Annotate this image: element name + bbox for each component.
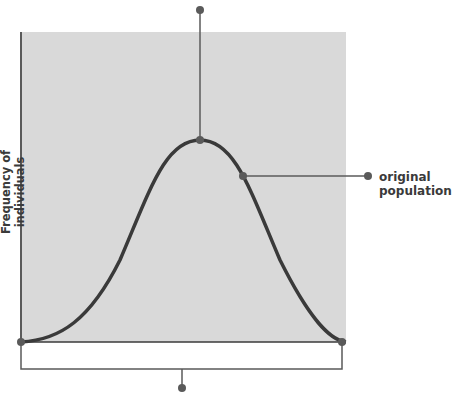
population-pointer-curve-dot bbox=[239, 172, 247, 180]
original-population-label-line1: original bbox=[379, 170, 452, 184]
peak-pointer-dot bbox=[196, 136, 204, 144]
plot-area bbox=[21, 32, 346, 342]
population-pointer-end-dot bbox=[364, 172, 372, 180]
y-axis-label: Frequency of individuals bbox=[0, 117, 27, 267]
original-population-label-line2: population bbox=[379, 184, 452, 198]
original-population-label: original population bbox=[379, 170, 452, 198]
range-bracket-dot bbox=[178, 384, 186, 392]
peak-pointer-top-dot bbox=[196, 6, 204, 14]
range-bracket bbox=[21, 342, 342, 369]
